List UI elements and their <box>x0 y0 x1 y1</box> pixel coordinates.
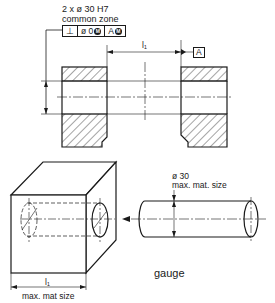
cube-max-mat-size-label: max. mat size <box>22 291 74 301</box>
tolerance-cell: ø 0M <box>78 26 105 36</box>
left-part-top-hatch <box>62 67 107 81</box>
datum-cell: AM <box>105 26 125 36</box>
cube-l1-label: l₁ <box>45 277 50 287</box>
datum-a-label: A <box>193 47 205 58</box>
tolerance-callout-line2: common zone <box>62 14 119 24</box>
datum-reference: A <box>108 26 114 36</box>
mmc-modifier-icon: M <box>94 28 101 35</box>
gauge-cylinder <box>122 190 266 241</box>
part-isometric <box>11 162 116 290</box>
datum-mmc-modifier-icon: M <box>115 28 122 35</box>
cube-front-face <box>11 195 86 273</box>
tolerance-value: ø 0 <box>81 26 93 36</box>
insertion-arrow-icon <box>122 216 130 222</box>
right-part-bottom-hatch <box>181 114 227 147</box>
perpendicularity-symbol: ⊥ <box>63 26 78 36</box>
gauge-label: gauge <box>154 268 185 278</box>
l1-dimension-label: l₁ <box>142 40 147 50</box>
right-part-top-hatch <box>181 67 227 81</box>
feature-control-frame: ⊥ ø 0M AM <box>62 25 126 37</box>
technical-drawing <box>0 0 275 303</box>
leader-line <box>46 30 62 81</box>
tolerance-callout-line1: 2 x ø 30 H7 <box>62 4 109 14</box>
left-part-bottom-hatch <box>62 114 107 147</box>
gauge-max-mat-size-label: max. mat. size <box>172 180 227 190</box>
